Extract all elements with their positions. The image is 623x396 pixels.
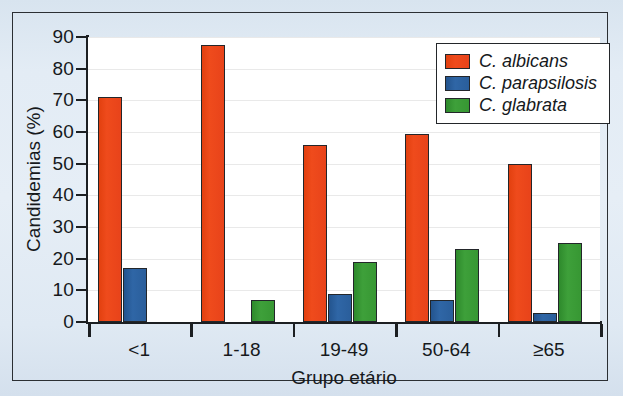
x-axis-tick-mark [498,324,501,337]
x-axis-tick-mark [88,324,91,337]
legend-swatch-icon [445,76,470,91]
bar [533,313,557,323]
y-axis-tick-label: 0 [34,312,74,331]
bar-group [88,37,190,322]
x-axis-tick-label: 1-18 [187,339,297,361]
x-axis-tick-label: <1 [84,339,194,361]
y-axis-tick-mark [76,226,87,228]
y-axis-tick-mark [76,289,87,291]
y-axis-tick-mark [76,194,87,196]
x-axis-tick-label: ≥65 [494,339,604,361]
bar [558,243,582,322]
bar [508,164,532,322]
bar [201,45,225,322]
legend-label: C. parapsilosis [479,74,597,92]
y-axis-tick-mark [76,68,87,70]
y-axis-tick-mark [76,321,87,323]
legend-swatch-icon [445,98,470,113]
y-axis-tick-mark [76,258,87,260]
y-axis-tick-mark [76,99,87,101]
bar [353,262,377,322]
bar [405,134,429,322]
bar-group [293,37,395,322]
bar [123,268,147,322]
legend-row: C. albicans [445,50,597,72]
y-axis-title: Candidemias (%) [23,59,45,299]
figure-root: 0102030405060708090 Candidemias (%) <11-… [0,0,623,396]
chart-legend: C. albicansC. parapsilosisC. glabrata [436,43,610,124]
y-axis-tick-label: 90 [34,27,74,46]
legend-swatch-icon [445,54,470,69]
x-axis-tick-label: 50-64 [391,339,501,361]
bar [328,294,352,323]
y-axis-tick-mark [76,36,87,38]
legend-row: C. parapsilosis [445,72,597,94]
bar [98,97,122,322]
legend-label: C. glabrata [479,96,567,114]
legend-row: C. glabrata [445,94,597,116]
y-axis-tick-mark [76,131,87,133]
bar [455,249,479,322]
x-axis-tick-mark [600,324,603,337]
x-axis-tick-mark [293,324,296,337]
legend-label: C. albicans [479,52,568,70]
bar [430,300,454,322]
x-axis-tick-label: 19-49 [289,339,399,361]
x-axis-tick-mark [395,324,398,337]
bar-group [190,37,292,322]
x-axis-tick-mark [190,324,193,337]
y-axis-tick-mark [76,163,87,165]
bar [251,300,275,322]
bar [303,145,327,322]
x-axis-title: Grupo etário [88,367,600,389]
